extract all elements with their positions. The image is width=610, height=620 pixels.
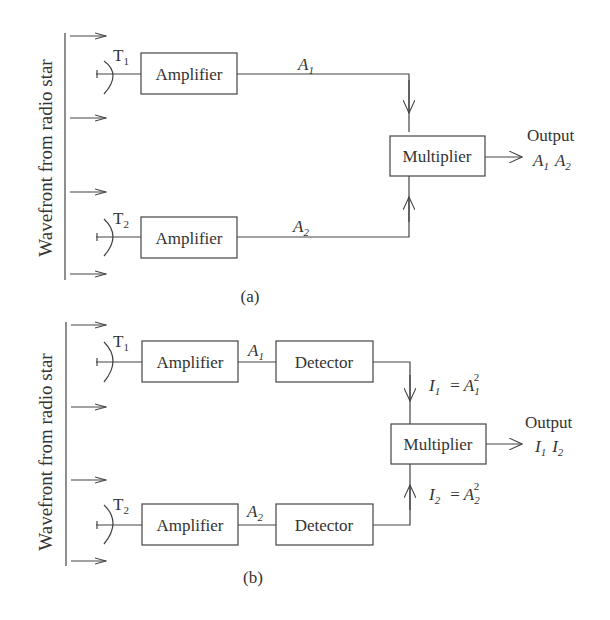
signal-1-label: A1 — [297, 55, 314, 76]
caption-b: (b) — [243, 568, 263, 587]
amplifier-1-label: Amplifier — [155, 65, 222, 84]
detector-2-label: Detector — [295, 516, 354, 535]
wavefront-label: Wavefront from radio star — [35, 59, 56, 257]
detector-1-label: Detector — [295, 353, 354, 372]
multiplier-label: Multiplier — [404, 435, 473, 454]
telescope-1-label: T1 — [113, 46, 129, 67]
signal-2-line — [237, 176, 409, 237]
telescope-1-label: T1 — [113, 332, 129, 353]
wavefront-arrows — [70, 36, 106, 274]
output-value: A1A2 — [532, 151, 571, 172]
output-title: Output — [527, 126, 575, 145]
signal-1-label: A1 — [247, 341, 264, 362]
intensity-2-label: I2=A22 — [428, 480, 480, 506]
output-value: I1I2 — [534, 437, 564, 458]
signal-2-label: A2 — [292, 217, 309, 238]
signal-2-label: A2 — [246, 502, 263, 523]
multiplier-label: Multiplier — [403, 147, 472, 166]
diagram-b: Wavefront from radio star T1 Amplifier A… — [35, 322, 573, 587]
signal-1-line — [237, 74, 409, 132]
wavefront-label: Wavefront from radio star — [35, 353, 56, 551]
telescope-2-label: T2 — [113, 209, 129, 230]
amplifier-1-label: Amplifier — [156, 353, 223, 372]
diagram-a: Wavefront from radio star T1 Amplifier A… — [35, 33, 575, 306]
output-title: Output — [525, 413, 573, 432]
intensity-1-label: I1=A12 — [428, 371, 480, 397]
caption-a: (a) — [241, 287, 260, 306]
telescope-1-dish-icon — [96, 61, 141, 94]
intensity-1-line — [373, 362, 410, 424]
telescope-2-label: T2 — [113, 495, 129, 516]
intensity-2-line — [373, 464, 410, 525]
amplifier-2-label: Amplifier — [155, 229, 222, 248]
amplifier-2-label: Amplifier — [156, 516, 223, 535]
